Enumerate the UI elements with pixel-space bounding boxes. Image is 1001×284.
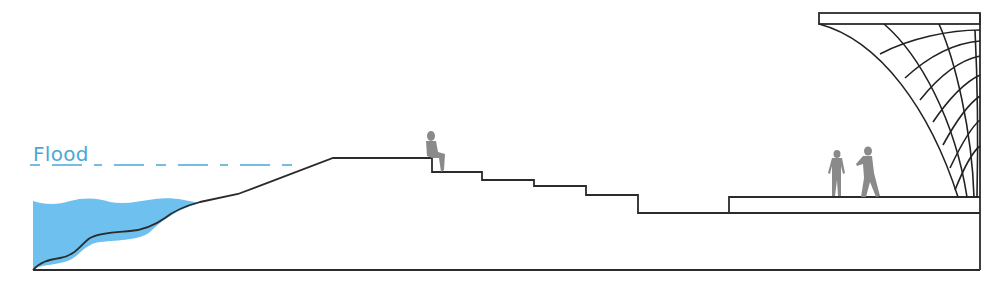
standing-person-1 — [828, 150, 845, 196]
canopy-roof-slab — [819, 13, 980, 24]
standing-person-2 — [856, 147, 880, 198]
seated-person — [426, 131, 445, 172]
stepped-terrace — [432, 158, 980, 213]
section-diagram — [0, 0, 1001, 284]
flood-label: Flood — [33, 142, 89, 166]
water-body — [33, 198, 200, 270]
